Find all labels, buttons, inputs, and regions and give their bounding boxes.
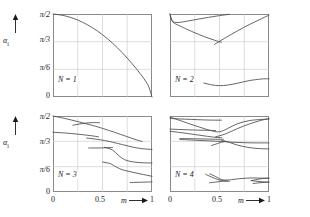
data-curve-branch-2 (170, 14, 221, 42)
y-tick-bottom-1: π/3 (22, 138, 50, 146)
panel-n2-label: N = 2 (174, 76, 195, 84)
y-tick-top-3: 0 (22, 92, 50, 100)
y-tick-top-1: π/3 (22, 36, 50, 44)
figure-alpha-vs-m: αi αi π/2 π/3 π/6 0 π/2 π/3 π/6 0 N = 1 … (0, 0, 310, 217)
y-axis-arrow-top (12, 14, 19, 33)
y-tick-bottom-2: π/6 (22, 166, 50, 174)
data-curve-branch-15 (253, 182, 269, 183)
panel-n4-plot (170, 116, 269, 192)
data-curve-branch-5 (89, 147, 113, 148)
data-curve-branch-3 (53, 132, 99, 137)
x-tick-left-0: 0 (51, 196, 55, 204)
x-axis-title-right: m (238, 197, 244, 205)
data-curve-branch-6 (180, 139, 224, 140)
y-tick-top-0: π/2 (22, 11, 50, 19)
y-axis-arrow-bottom (12, 116, 19, 135)
data-curve-branch-8 (130, 182, 152, 183)
panel-n3-plot (53, 116, 152, 192)
x-tick-right-0: 0 (168, 196, 172, 204)
data-curve-branch-1 (53, 116, 142, 141)
panel-n3-label: N = 3 (57, 171, 78, 179)
panel-n3: N = 3 (53, 116, 152, 192)
data-curve-branch-6 (104, 147, 152, 163)
x-tick-right-2: 1 (267, 196, 271, 204)
data-curve-branch-4 (170, 131, 221, 137)
x-axis-title-left: m (121, 197, 127, 205)
panel-n1-label: N = 1 (57, 76, 78, 84)
x-tick-right-1: 0.5 (212, 196, 222, 204)
data-curve-branch-12 (210, 181, 228, 183)
x-tick-left-2: 1 (150, 196, 154, 204)
data-curve-branch-4 (204, 79, 269, 86)
x-axis-arrow-right (246, 197, 265, 204)
y-tick-top-2: π/6 (22, 64, 50, 72)
panel-n1: N = 1 (53, 14, 152, 97)
panel-n2: N = 2 (170, 14, 269, 97)
data-curve-branch-3 (215, 15, 269, 44)
x-axis-arrow-left (129, 197, 148, 204)
panel-n2-plot (170, 14, 269, 97)
data-curve-branch-1 (170, 14, 229, 23)
data-curve-branch-9 (212, 141, 226, 145)
panel-n4: N = 4 (170, 116, 269, 192)
x-tick-left-1: 0.5 (95, 196, 105, 204)
panel-n1-plot (53, 14, 152, 97)
panel-n4-label: N = 4 (174, 171, 195, 179)
data-curve-branch-5 (216, 118, 269, 136)
y-axis-title-top: αi (3, 37, 9, 47)
y-tick-bottom-3: 0 (22, 188, 50, 196)
y-axis-title-bottom: αi (3, 139, 9, 149)
y-tick-bottom-0: π/2 (22, 113, 50, 121)
